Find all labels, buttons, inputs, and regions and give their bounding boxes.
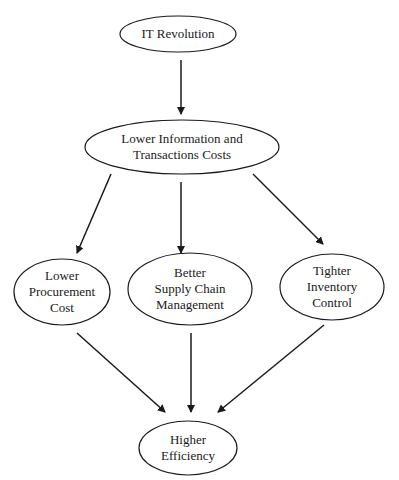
node-label: Higher	[170, 432, 206, 448]
node-label: Procurement	[29, 284, 95, 300]
node-higher-efficiency: Higher Efficiency	[139, 421, 237, 475]
node-label: Management	[156, 297, 224, 313]
node-label: Cost	[50, 300, 74, 316]
arrow-lower-procurement-to-higher-efficiency	[77, 333, 165, 412]
node-label: Lower	[45, 268, 79, 284]
node-label: Inventory	[307, 279, 358, 295]
nodes-group	[14, 16, 384, 475]
flowchart-canvas	[0, 0, 399, 480]
node-lower-information-transactions-costs: Lower Information and Transactions Costs	[85, 120, 279, 174]
node-label: Efficiency	[161, 448, 215, 464]
node-tighter-inventory-control: Tighter Inventory Control	[280, 254, 384, 320]
node-label: Transactions Costs	[133, 147, 231, 163]
node-label: Better	[174, 265, 206, 281]
arrow-lower-info-costs-to-lower-procurement	[77, 174, 111, 253]
node-label: Supply Chain	[154, 281, 225, 297]
edges-group	[77, 60, 324, 412]
node-it-revolution: IT Revolution	[120, 16, 236, 52]
node-label: IT Revolution	[141, 26, 214, 42]
arrow-tighter-inventory-to-higher-efficiency	[218, 325, 324, 412]
node-label: Control	[312, 295, 352, 311]
node-better-supply-chain-management: Better Supply Chain Management	[128, 253, 252, 325]
node-label: Tighter	[313, 263, 351, 279]
node-lower-procurement-cost: Lower Procurement Cost	[14, 259, 110, 325]
arrow-lower-info-costs-to-tighter-inventory	[253, 174, 323, 244]
node-label: Lower Information and	[121, 131, 242, 147]
